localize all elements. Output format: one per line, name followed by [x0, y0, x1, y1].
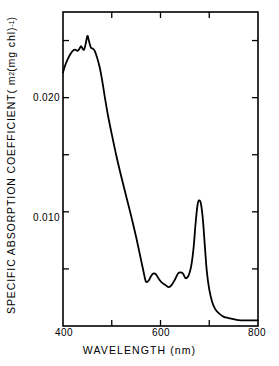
axes-frame [63, 12, 258, 326]
plot-area [0, 0, 279, 366]
axis-tick-marks [63, 12, 258, 326]
absorption-spectrum-curve [63, 36, 258, 321]
figure-panel: SPECIFIC ABSORPTION COEFFICIENT ( m2 (mg… [0, 0, 279, 366]
